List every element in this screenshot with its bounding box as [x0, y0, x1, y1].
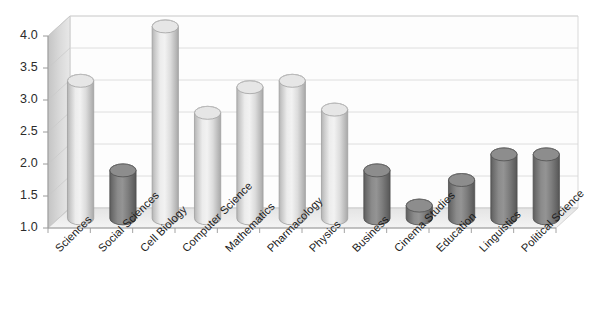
- cylinder-bar-chart: 1.01.52.02.53.03.54.0 SciencesSocial Sci…: [0, 0, 600, 333]
- bar-cylinder: [279, 74, 305, 225]
- x-axis: [48, 228, 556, 233]
- bar-body: [533, 154, 559, 225]
- y-axis-tick-label: 1.5: [4, 188, 38, 202]
- bar-cylinder: [491, 148, 517, 225]
- bar-body: [321, 110, 347, 225]
- bar-body: [110, 170, 136, 225]
- bar-body: [491, 154, 517, 225]
- chart-canvas: [0, 0, 600, 333]
- bar-cylinder: [448, 174, 474, 225]
- y-axis-tick-label: 4.0: [4, 28, 38, 42]
- bar-cylinder: [194, 106, 220, 225]
- bar-cylinder: [321, 103, 347, 225]
- y-axis-tick-label: 3.0: [4, 92, 38, 106]
- bar-body: [194, 113, 220, 225]
- y-axis: [43, 36, 48, 228]
- bar-body: [152, 26, 178, 225]
- bar-cylinder: [237, 81, 263, 225]
- bar-body: [67, 81, 93, 225]
- bar-cylinder: [533, 148, 559, 225]
- bar-cylinder: [67, 74, 93, 225]
- y-axis-tick-label: 3.5: [4, 60, 38, 74]
- bar-body: [364, 170, 390, 224]
- bar-body: [237, 87, 263, 225]
- y-axis-tick-label: 1.0: [4, 220, 38, 234]
- bar-cylinder: [406, 199, 432, 225]
- y-axis-tick-label: 2.5: [4, 124, 38, 138]
- bar-cylinder: [152, 20, 178, 225]
- y-axis-tick-label: 2.0: [4, 156, 38, 170]
- bar-cylinder: [110, 164, 136, 225]
- bar-cylinder: [364, 164, 390, 225]
- bar-body: [279, 81, 305, 225]
